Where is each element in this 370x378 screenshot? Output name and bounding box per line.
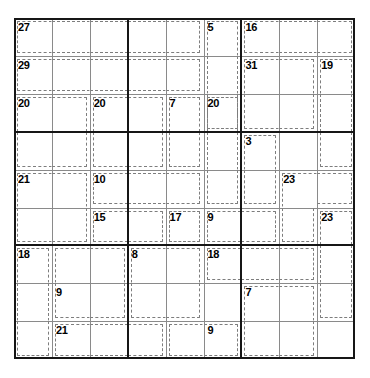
grid-line-vertical xyxy=(14,18,16,358)
cage-cell-outline xyxy=(244,170,276,205)
cage-sum-5: 5 xyxy=(208,22,214,33)
cage-sum-20: 20 xyxy=(208,98,220,109)
cage-cell-outline xyxy=(169,132,201,167)
cage-cell-outline xyxy=(131,283,166,318)
cage-sum-10: 10 xyxy=(94,174,106,185)
cage-cell-outline xyxy=(207,211,242,243)
cage-cell-outline xyxy=(166,59,201,91)
cage-cell-outline xyxy=(207,132,239,170)
cage-cell-outline xyxy=(244,286,279,321)
cage-sum-clues: 2751629311920207203211023151792318818972… xyxy=(14,18,355,358)
cage-cell-outline xyxy=(244,59,279,94)
cage-cell-outline xyxy=(17,173,52,208)
grid-line-vertical xyxy=(127,18,129,358)
grid-line-horizontal xyxy=(14,321,355,322)
cage-cell-outline xyxy=(90,324,128,356)
cage-sum-15: 15 xyxy=(94,212,106,223)
cage-cell-outline xyxy=(282,208,314,243)
cage-sum-27: 27 xyxy=(18,22,30,33)
cage-sum-8: 8 xyxy=(132,249,138,260)
cage-cell-outline xyxy=(52,173,87,208)
cage-cell-outline xyxy=(17,97,52,132)
cage-cell-outline xyxy=(93,173,128,205)
cage-sum-31: 31 xyxy=(245,60,257,71)
cage-cell-outline xyxy=(17,59,52,91)
grid-line-horizontal xyxy=(14,244,355,246)
sudoku-grid[interactable]: 2751629311920207203211023151792318818972… xyxy=(14,18,355,358)
cage-cell-outline xyxy=(131,248,166,283)
cage-cell-outline xyxy=(128,324,163,356)
grid-line-horizontal xyxy=(14,170,355,171)
grid-line-horizontal xyxy=(14,131,355,133)
cage-outlines xyxy=(14,18,355,358)
cage-cell-outline xyxy=(320,132,352,167)
cage-cell-outline xyxy=(166,283,201,318)
cage-cell-outline xyxy=(166,21,201,53)
cage-cell-outline xyxy=(320,211,352,246)
cage-cell-outline xyxy=(93,211,128,243)
cage-cell-outline xyxy=(17,21,52,53)
cage-cell-outline xyxy=(17,248,49,283)
grid-line-horizontal xyxy=(14,357,355,359)
cage-cell-outline xyxy=(52,208,87,243)
grid-cell-lines xyxy=(14,18,355,358)
cage-cell-outline xyxy=(128,132,163,167)
cage-cell-outline xyxy=(90,283,125,318)
cage-cell-outline xyxy=(279,59,314,94)
cage-sum-9: 9 xyxy=(208,212,214,223)
cage-cell-outline xyxy=(169,324,204,356)
cage-cell-outline xyxy=(317,21,352,53)
grid-line-vertical xyxy=(240,18,242,358)
cage-cell-outline xyxy=(320,94,352,132)
cage-cell-outline xyxy=(52,21,90,53)
cage-cell-outline xyxy=(90,21,128,53)
cage-cell-outline xyxy=(279,21,317,53)
cage-sum-23: 23 xyxy=(321,212,333,223)
cage-cell-outline xyxy=(17,321,49,356)
cage-cell-outline xyxy=(244,21,279,53)
cage-cell-outline xyxy=(128,59,166,91)
cage-cell-outline xyxy=(93,132,128,167)
cage-sum-3: 3 xyxy=(245,136,251,147)
cage-cell-outline xyxy=(241,248,279,280)
cage-sum-20: 20 xyxy=(94,98,106,109)
cage-cell-outline xyxy=(93,97,128,132)
cage-cell-outline xyxy=(207,248,242,280)
cage-cell-outline xyxy=(279,321,314,356)
cage-cell-outline xyxy=(279,94,314,129)
cage-cell-outline xyxy=(207,21,239,56)
cage-cell-outline xyxy=(169,211,201,243)
grid-line-horizontal xyxy=(14,56,355,57)
killer-sudoku-puzzle: 2751629311920207203211023151792318818972… xyxy=(0,0,370,378)
cage-sum-23: 23 xyxy=(283,174,295,185)
cage-cell-outline xyxy=(52,132,87,167)
cage-cell-outline xyxy=(169,97,201,132)
cage-cell-outline xyxy=(55,283,90,318)
cage-sum-9: 9 xyxy=(208,325,214,336)
grid-line-vertical xyxy=(353,18,355,358)
grid-line-horizontal xyxy=(14,94,355,95)
grid-line-horizontal xyxy=(14,283,355,284)
cage-sum-19: 19 xyxy=(321,60,333,71)
cage-cell-outline xyxy=(282,173,317,208)
cage-cell-outline xyxy=(244,321,279,356)
cage-cell-outline xyxy=(52,97,87,132)
cage-cell-outline xyxy=(128,21,166,53)
cage-cell-outline xyxy=(128,173,166,205)
cage-sum-29: 29 xyxy=(18,60,30,71)
cage-cell-outline xyxy=(244,135,276,170)
cage-cell-outline xyxy=(207,170,239,205)
cage-cell-outline xyxy=(320,283,352,318)
grid-line-vertical xyxy=(204,18,205,358)
grid-line-vertical xyxy=(52,18,53,358)
cage-cell-outline xyxy=(320,59,352,94)
cage-cell-outline xyxy=(17,132,52,167)
cage-cell-outline xyxy=(320,245,352,283)
grid-line-vertical xyxy=(317,18,318,358)
cage-cell-outline xyxy=(17,208,52,243)
cage-cell-outline xyxy=(241,211,276,243)
cage-sum-18: 18 xyxy=(18,249,30,260)
cage-cell-outline xyxy=(128,211,163,243)
cage-cell-outline xyxy=(17,283,49,321)
cage-sum-7: 7 xyxy=(245,287,251,298)
